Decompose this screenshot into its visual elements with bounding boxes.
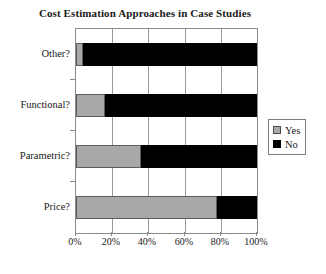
bar-segment-yes	[76, 145, 141, 168]
bar-segment-no	[83, 43, 257, 66]
bar-segment-yes	[76, 43, 83, 66]
bar-segment-no	[217, 196, 257, 219]
legend-item-no: No	[273, 137, 300, 151]
x-axis-label: 40%	[127, 236, 167, 247]
plot-area	[75, 28, 258, 234]
legend-label: No	[285, 139, 298, 150]
y-axis-label: Parametric?	[0, 144, 70, 167]
chart-container: Cost Estimation Approaches in Case Studi…	[0, 0, 326, 274]
y-axis-label: Price?	[0, 195, 70, 218]
x-axis: 0%20%40%60%80%100%	[75, 236, 256, 252]
x-axis-label: 100%	[236, 236, 276, 247]
legend-item-yes: Yes	[273, 123, 300, 137]
y-axis-label: Other?	[0, 42, 70, 65]
chart-title: Cost Estimation Approaches in Case Studi…	[0, 7, 290, 19]
bar-segment-no	[105, 94, 257, 117]
bar-row	[76, 43, 257, 66]
x-axis-label: 20%	[91, 236, 131, 247]
y-axis: Other?Functional?Parametric?Price?	[0, 28, 70, 232]
bar-segment-yes	[76, 94, 105, 117]
legend-swatch-icon	[273, 126, 281, 134]
legend-swatch-icon	[273, 140, 281, 148]
y-axis-label: Functional?	[0, 93, 70, 116]
chart-legend: YesNo	[268, 119, 306, 155]
bar-row	[76, 94, 257, 117]
bar-row	[76, 196, 257, 219]
legend-label: Yes	[285, 125, 300, 136]
bar-row	[76, 145, 257, 168]
bar-segment-no	[141, 145, 257, 168]
bar-segment-yes	[76, 196, 217, 219]
x-axis-label: 80%	[200, 236, 240, 247]
x-axis-label: 0%	[55, 236, 95, 247]
x-axis-label: 60%	[164, 236, 204, 247]
